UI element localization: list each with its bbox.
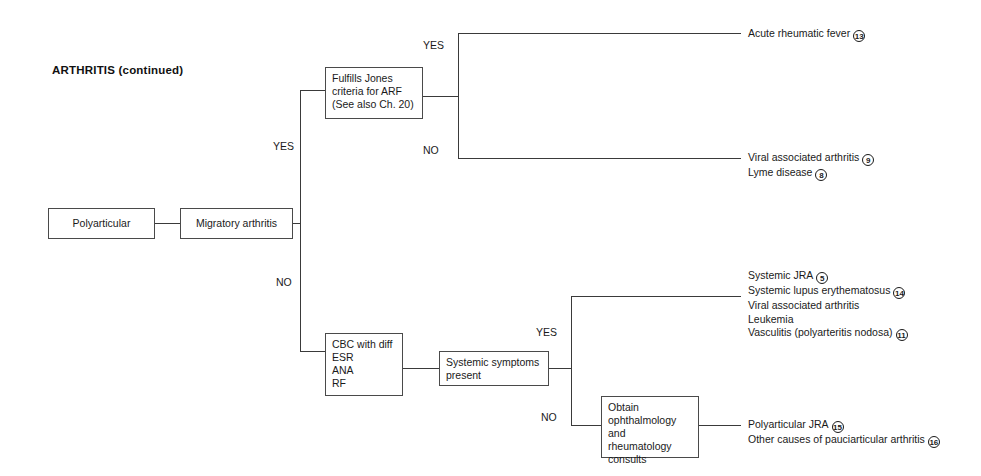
outcome-line: Leukemia (748, 313, 908, 327)
connector-migratory-no-arm (300, 351, 325, 352)
node-polyarticular[interactable]: Polyarticular (48, 208, 155, 239)
node-systemic-symptoms[interactable]: Systemic symptoms present (439, 351, 549, 386)
reference-number-badge: 15 (832, 421, 844, 433)
outcome-line: Systemic JRA5 (748, 269, 908, 284)
outcome-text: Systemic JRA (748, 269, 813, 281)
connector-migratory-split-vertical (300, 90, 301, 351)
branch-label-migratory-yes: YES (273, 140, 294, 152)
branch-label-systemic-no: NO (541, 411, 557, 423)
outcome-line: Systemic lupus erythematosus14 (748, 284, 908, 299)
branch-label-migratory-no: NO (276, 276, 292, 288)
connector-systemic-split-vertical (571, 296, 572, 425)
branch-label-systemic-yes: YES (536, 326, 557, 338)
flowchart-canvas: ARTHRITIS (continued) Polyarticular Migr… (0, 0, 981, 476)
outcome-group-systemic-list: Systemic JRA5 Systemic lupus erythematos… (748, 269, 908, 341)
outcome-line: Viral associated arthritis (748, 299, 908, 313)
node-lab-workup[interactable]: CBC with diff ESR ANA RF (325, 333, 403, 396)
connector-jones-stem (423, 96, 458, 97)
reference-number-badge: 11 (896, 329, 908, 341)
outcome-line: Polyarticular JRA15 (748, 418, 940, 433)
node-jones-criteria[interactable]: Fulfills Jones criteria for ARF (See als… (325, 67, 423, 119)
connector-systemic-no-arm (571, 425, 601, 426)
reference-number-badge: 13 (853, 30, 865, 42)
outcome-text: Leukemia (748, 313, 794, 325)
outcome-text: Acute rheumatic fever (748, 27, 850, 39)
outcome-text: Other causes of pauciarticular arthritis (748, 433, 925, 445)
outcome-line: Other causes of pauciarticular arthritis… (748, 433, 940, 448)
connector-consults-to-outcomes (699, 425, 741, 426)
connector-jones-yes-arm (458, 33, 741, 34)
outcome-line: Lyme disease8 (748, 166, 874, 181)
connector-jones-no-arm (458, 158, 741, 159)
page-title: ARTHRITIS (continued) (52, 64, 183, 76)
reference-number-badge: 14 (893, 287, 905, 299)
reference-number-badge: 16 (928, 436, 940, 448)
connector-systemic-yes-arm (571, 296, 741, 297)
outcome-text: Systemic lupus erythematosus (748, 284, 890, 296)
connector-labs-to-systemic (403, 368, 439, 369)
node-obtain-consults[interactable]: Obtain ophthalmology and rheumatology co… (601, 396, 699, 458)
outcome-line: Viral associated arthritis9 (748, 151, 874, 166)
reference-number-badge: 5 (816, 272, 828, 284)
branch-label-jones-yes: YES (423, 39, 444, 51)
outcome-group-viral-lyme: Viral associated arthritis9 Lyme disease… (748, 151, 874, 181)
outcome-line: Acute rheumatic fever13 (748, 27, 865, 42)
outcome-line: Vasculitis (polyarteritis nodosa)11 (748, 326, 908, 341)
outcome-text: Viral associated arthritis (748, 151, 859, 163)
connector-polyarticular-to-migratory (155, 223, 180, 224)
node-migratory-arthritis[interactable]: Migratory arthritis (180, 208, 293, 239)
outcome-text: Polyarticular JRA (748, 418, 829, 430)
outcome-text: Vasculitis (polyarteritis nodosa) (748, 326, 893, 338)
reference-number-badge: 9 (862, 154, 874, 166)
connector-systemic-stem (549, 368, 571, 369)
connector-migratory-yes-arm (300, 90, 325, 91)
reference-number-badge: 8 (815, 169, 827, 181)
outcome-text: Viral associated arthritis (748, 299, 859, 311)
outcome-group-acute-rheumatic-fever: Acute rheumatic fever13 (748, 27, 865, 42)
outcome-text: Lyme disease (748, 166, 812, 178)
connector-jones-split-vertical (458, 33, 459, 159)
outcome-group-pauciarticular: Polyarticular JRA15 Other causes of pauc… (748, 418, 940, 448)
branch-label-jones-no: NO (423, 144, 439, 156)
